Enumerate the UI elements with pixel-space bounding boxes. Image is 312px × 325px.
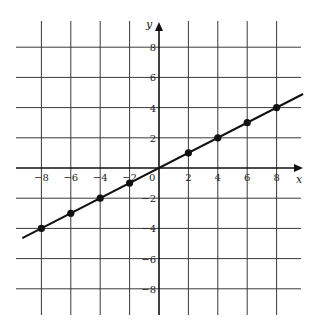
axes: x y 0 bbox=[16, 18, 303, 315]
data-point bbox=[185, 149, 192, 156]
y-tick-label: −6 bbox=[141, 254, 156, 265]
x-tick-label: 8 bbox=[273, 172, 279, 183]
data-point bbox=[67, 210, 74, 217]
x-tick-label: 2 bbox=[185, 172, 191, 183]
coordinate-grid-chart: x y 0 −8−6−4−224688642−2−4−6−8 bbox=[0, 0, 312, 325]
data-point bbox=[97, 195, 104, 202]
x-tick-label: 4 bbox=[215, 172, 221, 183]
y-tick-label: −4 bbox=[141, 223, 156, 234]
x-tick-label: −8 bbox=[34, 172, 49, 183]
series-line bbox=[22, 94, 303, 238]
y-axis-arrow-icon bbox=[155, 22, 163, 31]
x-tick-label: 6 bbox=[244, 172, 250, 183]
data-point bbox=[38, 225, 45, 232]
y-tick-label: −2 bbox=[141, 193, 156, 204]
data-point bbox=[244, 119, 251, 126]
y-axis-label: y bbox=[145, 18, 153, 31]
y-tick-label: −8 bbox=[141, 284, 156, 295]
data-point bbox=[126, 180, 133, 187]
y-tick-label: 8 bbox=[150, 42, 156, 53]
x-axis-arrow-icon bbox=[294, 164, 303, 172]
y-tick-label: 2 bbox=[150, 133, 156, 144]
data-point bbox=[273, 104, 280, 111]
y-tick-label: 6 bbox=[150, 72, 156, 83]
x-tick-label: −4 bbox=[93, 172, 108, 183]
y-tick-label: 4 bbox=[150, 103, 156, 114]
x-axis-label: x bbox=[296, 173, 303, 186]
data-point bbox=[214, 134, 221, 141]
data-series bbox=[22, 94, 303, 238]
x-tick-label: −6 bbox=[63, 172, 78, 183]
